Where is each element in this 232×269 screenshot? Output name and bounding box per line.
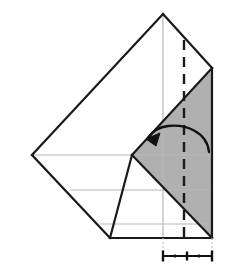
origami-figure (0, 0, 232, 269)
origami-diagram (0, 0, 232, 269)
